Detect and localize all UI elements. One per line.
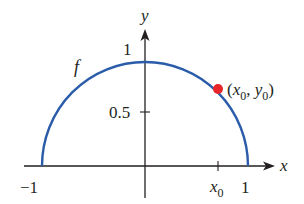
- y-tick-label-half: 0.5: [109, 103, 130, 122]
- semicircle-diagram: y x f 1 0.5 −1 1 x0 (x0, y0): [0, 0, 304, 204]
- y-tick-label-1: 1: [123, 40, 132, 59]
- y-axis: [140, 29, 150, 198]
- x-axis-label: x: [279, 156, 288, 175]
- x-axis: [24, 161, 275, 171]
- x-tick-label-x0: x0: [209, 177, 224, 200]
- x-tick-label-1: 1: [241, 178, 250, 197]
- function-label: f: [74, 57, 82, 77]
- point-label: (x0, y0): [227, 80, 274, 103]
- y-axis-label: y: [139, 6, 149, 25]
- x-tick-label-neg1: −1: [20, 178, 38, 197]
- highlighted-point: [213, 84, 223, 94]
